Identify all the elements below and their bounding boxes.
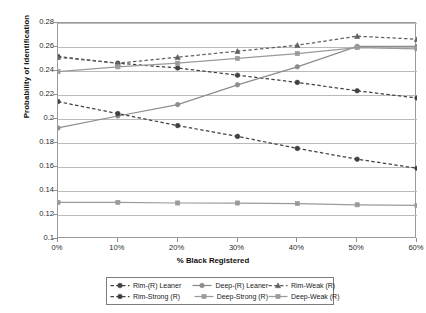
x-tick-label: 50% — [334, 243, 378, 252]
legend-item-deep-weak-r[interactable]: Deep-Weak (R) — [268, 292, 330, 301]
legend-row: Rim-(R) LeanerDeep-(R) LeanerRim-Weak (R… — [110, 280, 330, 291]
legend-row: Rim-Strong (R)Deep-Strong (R)Deep-Weak (… — [110, 291, 330, 302]
y-tick-label: 0.2 — [14, 114, 54, 122]
x-tick-label: 30% — [215, 243, 259, 252]
x-tick-mark — [57, 238, 58, 242]
y-tick-mark — [53, 94, 57, 95]
y-tick-label: 0.28 — [14, 18, 54, 26]
legend-item-rim-strong-r[interactable]: Rim-Strong (R) — [110, 292, 194, 301]
x-tick-label: 10% — [95, 243, 139, 252]
x-tick-label: 20% — [155, 243, 199, 252]
legend-label: Deep-Weak (R) — [291, 293, 340, 300]
legend-label: Rim-(R) Leaner — [133, 282, 181, 289]
x-tick-mark — [177, 238, 178, 242]
x-tick-mark — [237, 238, 238, 242]
legend-item-rim-r-leaner[interactable]: Rim-(R) Leaner — [110, 281, 192, 290]
legend-item-deep-strong-r[interactable]: Deep-Strong (R) — [194, 292, 268, 301]
y-tick-label: 0.16 — [14, 162, 54, 170]
legend-label: Rim-Weak (R) — [291, 282, 335, 289]
y-tick-label: 0.24 — [14, 66, 54, 74]
x-tick-mark — [296, 238, 297, 242]
y-tick-label: 0.1 — [14, 234, 54, 242]
y-tick-mark — [53, 46, 57, 47]
y-tick-mark — [53, 22, 57, 23]
plot-svg — [58, 23, 417, 239]
y-tick-label: 0.12 — [14, 210, 54, 218]
series-4 — [58, 200, 417, 207]
y-tick-label: 0.26 — [14, 42, 54, 50]
legend-swatch-icon — [110, 292, 130, 301]
y-tick-label: 0.22 — [14, 90, 54, 98]
x-tick-mark — [117, 238, 118, 242]
legend-swatch-icon — [268, 292, 288, 301]
x-tick-label: 0% — [35, 243, 79, 252]
y-tick-label: 0.18 — [14, 138, 54, 146]
x-tick-label: 60% — [394, 243, 426, 252]
legend-swatch-icon — [268, 281, 288, 290]
y-axis-label: Probability of Identification — [22, 0, 31, 147]
legend-item-deep-r-leaner[interactable]: Deep-(R) Leaner — [192, 281, 268, 290]
legend-swatch-icon — [110, 281, 130, 290]
legend-item-rim-weak-r[interactable]: Rim-Weak (R) — [268, 281, 330, 290]
y-tick-mark — [53, 190, 57, 191]
chart-figure: 0.10.120.140.160.180.20.220.240.260.28 P… — [0, 0, 426, 313]
x-tick-label: 40% — [274, 243, 318, 252]
x-axis-label: % Black Registered — [0, 256, 426, 265]
legend-swatch-icon — [194, 292, 214, 301]
y-tick-mark — [53, 118, 57, 119]
y-tick-label: 0.14 — [14, 186, 54, 194]
chart-legend: Rim-(R) LeanerDeep-(R) LeanerRim-Weak (R… — [106, 277, 334, 305]
y-tick-mark — [53, 166, 57, 167]
series-0 — [58, 54, 417, 100]
x-tick-mark — [356, 238, 357, 242]
legend-label: Rim-Strong (R) — [133, 293, 180, 300]
legend-swatch-icon — [192, 281, 212, 290]
legend-label: Deep-Strong (R) — [217, 293, 268, 300]
plot-area — [57, 22, 416, 238]
y-tick-mark — [53, 142, 57, 143]
y-tick-mark — [53, 70, 57, 71]
series-3 — [58, 99, 417, 170]
x-tick-mark — [416, 238, 417, 242]
y-tick-mark — [53, 214, 57, 215]
legend-label: Deep-(R) Leaner — [215, 282, 268, 289]
